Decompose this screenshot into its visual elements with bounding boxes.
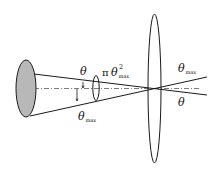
theta-max-right-sub: max — [186, 69, 197, 75]
theta-max-sq-sup: 2 — [119, 63, 123, 71]
theta-max-sq-label: θ — [111, 66, 118, 79]
theta-max-label-left: θ — [78, 110, 85, 123]
theta-label-right: θ — [178, 96, 185, 109]
theta-max-left-sub: max — [86, 117, 97, 123]
solid-angle-ring — [93, 76, 99, 101]
cone-lens-diagram: θ π θ 2 max θ max θ max θ — [0, 0, 218, 175]
theta-max-sq-sub: max — [119, 73, 130, 79]
theta-label-inner: θ — [80, 65, 87, 78]
pi-label: π — [102, 67, 109, 78]
theta-max-label-right: θ — [178, 62, 185, 75]
source-disk — [16, 60, 36, 117]
